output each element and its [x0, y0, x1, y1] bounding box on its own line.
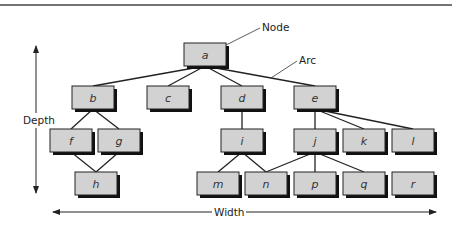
node-label: k: [361, 135, 368, 148]
node-l: l: [392, 129, 437, 155]
node-g: g: [98, 129, 143, 155]
node-c: c: [147, 86, 192, 112]
node-b: b: [72, 86, 117, 112]
node-label: a: [202, 49, 209, 62]
node-k: k: [343, 129, 388, 155]
node-label: h: [93, 178, 100, 191]
node-q: q: [343, 172, 388, 198]
arc-callout-label: Arc: [299, 54, 316, 66]
depth-axis-label: Depth: [23, 114, 55, 126]
node-label: b: [90, 92, 97, 105]
node-f: f: [50, 129, 95, 155]
node-label: e: [312, 92, 319, 105]
node-callout-label: Node: [262, 21, 289, 33]
node-label: c: [165, 92, 171, 105]
node-label: q: [361, 178, 368, 191]
tree-diagram: abcdefgijklhmnpqr Node Arc Depth Width: [0, 0, 463, 226]
node-i: i: [221, 129, 266, 155]
node-h: h: [75, 172, 120, 198]
node-label: n: [263, 178, 270, 191]
node-callout-leader: [226, 28, 260, 45]
node-label: g: [116, 135, 123, 148]
node-label: p: [311, 178, 319, 191]
node-label: m: [213, 178, 224, 191]
node-a: a: [184, 43, 229, 69]
node-label: d: [239, 92, 247, 105]
node-e: e: [294, 86, 339, 112]
node-j: j: [294, 129, 339, 155]
node-label: i: [240, 135, 243, 148]
arcs-layer: [71, 66, 413, 172]
node-label: l: [411, 135, 414, 148]
node-r: r: [392, 172, 437, 198]
node-n: n: [245, 172, 290, 198]
width-axis-label: Width: [214, 206, 245, 218]
node-d: d: [221, 86, 266, 112]
node-p: p: [294, 172, 339, 198]
arc-callout-leader: [271, 61, 297, 78]
node-m: m: [197, 172, 242, 198]
